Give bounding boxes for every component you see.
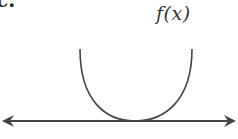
parabola-curve [80,49,192,121]
diagram-canvas: c. f(x) [0,0,238,139]
graph-svg [0,0,238,139]
